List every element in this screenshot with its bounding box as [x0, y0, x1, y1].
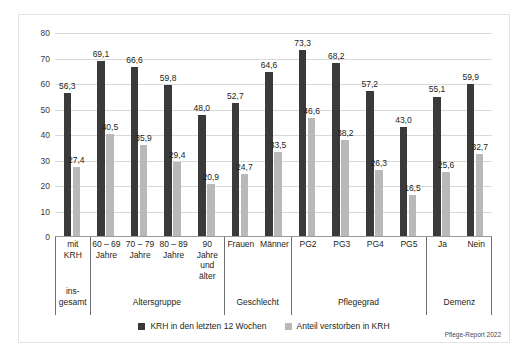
y-axis-tick-label: 70 [41, 54, 50, 64]
bar-anteil-verstorben[interactable] [106, 134, 114, 237]
bar-anteil-verstorben[interactable] [140, 145, 148, 237]
bar-value-label: 59,9 [462, 72, 479, 82]
bar-value-label: 43,0 [395, 115, 412, 125]
bar-value-label: 66,6 [126, 55, 143, 65]
y-axis-tick-label: 50 [41, 105, 50, 115]
bar-anteil-verstorben[interactable] [274, 152, 282, 237]
category-label: 60 – 69 Jahre [90, 239, 124, 260]
plot-area: 01020304050607080 56,327,469,140,566,635… [55, 33, 492, 237]
bar-anteil-verstorben[interactable] [173, 162, 181, 237]
bar-group: 57,226,3 [358, 33, 392, 237]
legend-swatch [285, 323, 292, 330]
bar-anteil-verstorben[interactable] [341, 140, 349, 237]
bar-value-label: 29,4 [169, 150, 186, 160]
bar-group: 64,633,5 [257, 33, 291, 237]
bar-value-label: 64,6 [261, 60, 278, 70]
bar-anteil-verstorben[interactable] [409, 195, 417, 237]
y-axis-tick-label: 80 [41, 28, 50, 38]
bar-anteil-verstorben[interactable] [241, 174, 249, 237]
legend-label: KRH in den letzten 12 Wochen [150, 321, 266, 331]
category-group-label: Demenz [426, 297, 493, 308]
bar-value-label: 73,3 [294, 38, 311, 48]
bar-group: 73,346,6 [290, 33, 324, 237]
bar-value-label: 46,6 [303, 106, 320, 116]
bar-group: 68,238,2 [324, 33, 358, 237]
category-group-separator [291, 237, 292, 315]
bar-krh-12-wochen[interactable] [265, 72, 273, 237]
category-label: Ja [426, 239, 460, 250]
y-axis-tick-label: 0 [45, 232, 50, 242]
legend-item[interactable]: KRH in den letzten 12 Wochen [138, 321, 266, 331]
bar-krh-12-wochen[interactable] [299, 50, 307, 237]
y-axis-tick-label: 20 [41, 181, 50, 191]
category-label: 80 – 89 Jahre [157, 239, 191, 260]
bar-value-label: 27,4 [68, 155, 85, 165]
bar-anteil-verstorben[interactable] [375, 170, 383, 237]
category-label: Männer [258, 239, 292, 250]
category-label: PG2 [291, 239, 325, 250]
bar-krh-12-wochen[interactable] [131, 67, 139, 237]
category-group-label: Altersgruppe [90, 297, 224, 308]
bar-group: 56,327,4 [55, 33, 89, 237]
category-axis-table: mit KRH60 – 69 Jahre70 – 79 Jahre80 – 89… [55, 237, 492, 315]
bar-group: 43,016,5 [391, 33, 425, 237]
bar-value-label: 68,2 [328, 51, 345, 61]
bar-value-label: 24,7 [236, 162, 253, 172]
source-caption: Pflege-Report 2022 [445, 331, 501, 338]
bar-krh-12-wochen[interactable] [467, 84, 475, 237]
bar-value-label: 59,8 [160, 73, 177, 83]
category-label: PG4 [359, 239, 393, 250]
bar-value-label: 52,7 [227, 91, 244, 101]
y-axis-tick-label: 60 [41, 79, 50, 89]
bar-value-label: 48,0 [193, 103, 210, 113]
category-group-label: ins- gesamt [56, 286, 90, 307]
bar-group: 52,724,7 [223, 33, 257, 237]
bar-krh-12-wochen[interactable] [64, 93, 72, 237]
bar-anteil-verstorben[interactable] [308, 118, 316, 237]
bar-value-label: 40,5 [102, 122, 119, 132]
category-group-label: Pflegegrad [291, 297, 425, 308]
category-label: PG3 [325, 239, 359, 250]
bar-value-label: 38,2 [337, 128, 354, 138]
bar-group: 59,829,4 [156, 33, 190, 237]
bar-value-label: 33,5 [270, 140, 287, 150]
category-label: PG5 [392, 239, 426, 250]
category-label: Nein [459, 239, 493, 250]
category-label: mit KRH [56, 239, 90, 260]
legend-swatch [138, 323, 145, 330]
legend-label: Anteil verstorben in KRH [297, 321, 390, 331]
bar-value-label: 32,7 [471, 142, 488, 152]
bar-krh-12-wochen[interactable] [332, 63, 340, 237]
bar-krh-12-wochen[interactable] [164, 85, 172, 237]
chart-figure: 01020304050607080 56,327,469,140,566,635… [18, 14, 510, 343]
category-label: 90 Jahre und älter [190, 239, 224, 281]
category-group-label: Geschlecht [224, 297, 291, 308]
category-group-separator [224, 237, 225, 315]
bar-group: 55,125,6 [425, 33, 459, 237]
bar-value-label: 25,6 [438, 160, 455, 170]
bar-value-label: 16,5 [404, 183, 421, 193]
bar-group: 48,020,9 [189, 33, 223, 237]
bar-anteil-verstorben[interactable] [73, 167, 81, 237]
bar-value-label: 56,3 [59, 81, 76, 91]
legend-item[interactable]: Anteil verstorben in KRH [285, 321, 390, 331]
category-label: 70 – 79 Jahre [123, 239, 157, 260]
bar-value-label: 20,9 [202, 172, 219, 182]
bar-value-label: 57,2 [362, 79, 379, 89]
bar-anteil-verstorben[interactable] [207, 184, 215, 237]
bar-group: 69,140,5 [89, 33, 123, 237]
bar-krh-12-wochen[interactable] [97, 61, 105, 237]
bar-value-label: 69,1 [93, 49, 110, 59]
bar-group: 59,932,7 [458, 33, 492, 237]
bar-value-label: 26,3 [371, 158, 388, 168]
bar-anteil-verstorben[interactable] [476, 154, 484, 237]
y-axis-tick-label: 10 [41, 207, 50, 217]
y-axis-tick-label: 30 [41, 156, 50, 166]
bar-value-label: 55,1 [429, 84, 446, 94]
category-group-separator [426, 237, 427, 315]
bar-anteil-verstorben[interactable] [442, 172, 450, 237]
y-axis-tick-label: 40 [41, 130, 50, 140]
bar-group: 66,635,9 [122, 33, 156, 237]
chart-legend: KRH in den letzten 12 WochenAnteil verst… [19, 321, 509, 331]
category-group-separator [90, 237, 91, 315]
